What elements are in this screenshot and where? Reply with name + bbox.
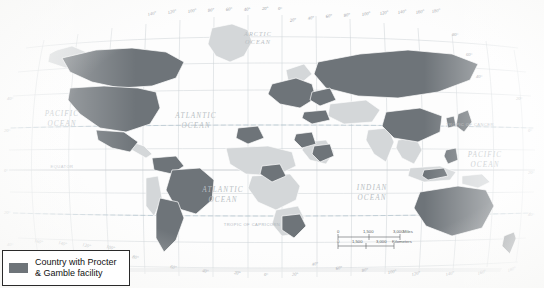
legend-swatch-highlight (9, 263, 28, 273)
page-edge-fade (0, 0, 544, 288)
map-figure: lar tasks. Transnationals de- in respons… (0, 0, 544, 288)
legend-label-line1: Country with Procter (35, 257, 117, 269)
legend-label: Country with Procter & Gamble facility (35, 257, 117, 280)
map-legend: Country with Procter & Gamble facility (2, 250, 130, 286)
world-map: ARCTIC OCEAN PACIFIC OCEAN ATLANTIC OCEA… (0, 0, 544, 288)
legend-label-line2: & Gamble facility (35, 268, 117, 280)
